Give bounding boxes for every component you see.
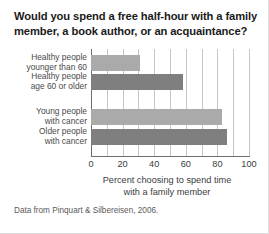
source-note: Data from Pinquart & Silbereisen, 2006. bbox=[14, 206, 158, 215]
category-label-healthy-younger: Healthy people younger than 60 bbox=[3, 52, 87, 72]
category-label-line-2: with cancer bbox=[3, 136, 87, 146]
gridline bbox=[249, 49, 250, 157]
x-axis-title-line-1: Percent choosing to spend time bbox=[72, 175, 262, 187]
category-label-line-1: Older people bbox=[3, 126, 87, 136]
category-label-line-2: with cancer bbox=[3, 116, 87, 126]
bar-older-cancer bbox=[91, 129, 227, 145]
x-tick-label: 0 bbox=[76, 159, 106, 169]
x-axis-title: Percent choosing to spend time with a fa… bbox=[72, 175, 262, 198]
category-label-older-cancer: Older people with cancer bbox=[3, 126, 87, 146]
category-label-line-1: Healthy people bbox=[3, 52, 87, 62]
category-label-line-2: age 60 or older bbox=[3, 81, 87, 91]
x-tick-label: 80 bbox=[202, 159, 232, 169]
bar-healthy-older bbox=[91, 74, 183, 90]
x-tick-label: 60 bbox=[171, 159, 201, 169]
category-label-line-1: Healthy people bbox=[3, 71, 87, 81]
chart-title: Would you spend a free half-hour with a … bbox=[14, 9, 260, 38]
x-tick-label: 20 bbox=[108, 159, 138, 169]
x-axis-line bbox=[91, 156, 250, 157]
x-tick-label: 40 bbox=[139, 159, 169, 169]
category-axis-labels: Healthy people younger than 60 Healthy p… bbox=[2, 49, 87, 157]
category-label-young-cancer: Young people with cancer bbox=[3, 106, 87, 126]
bar-healthy-younger bbox=[91, 55, 140, 71]
bar-young-cancer bbox=[91, 109, 222, 125]
category-label-line-1: Young people bbox=[3, 106, 87, 116]
chart-title-line-1: Would you spend a free half-hour with a … bbox=[14, 10, 257, 22]
x-axis-title-line-2: with a family member bbox=[72, 187, 262, 199]
chart-title-line-2: member, a book author, or an acquaintanc… bbox=[14, 25, 247, 37]
plot-area bbox=[91, 49, 249, 153]
chart-figure: Would you spend a free half-hour with a … bbox=[0, 0, 269, 234]
category-label-healthy-older: Healthy people age 60 or older bbox=[3, 71, 87, 91]
x-tick-label: 100 bbox=[234, 159, 264, 169]
